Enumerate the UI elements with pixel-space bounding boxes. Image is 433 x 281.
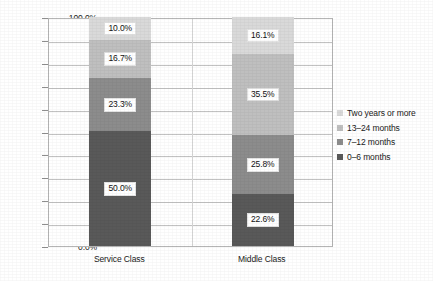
legend-swatch-icon (337, 125, 343, 131)
segment-value-label: 25.8% (247, 158, 279, 172)
bar-segment: 50.0% (89, 131, 151, 246)
segment-value-label: 35.5% (247, 88, 279, 102)
bar-middle-class: 16.1%35.5%25.8%22.6% (232, 17, 294, 246)
bar-segment: 16.1% (232, 17, 294, 54)
legend-swatch-icon (337, 154, 343, 160)
category-label: Middle Class (202, 254, 322, 264)
y-axis-tick-mark (42, 247, 48, 248)
bar-segment: 16.7% (89, 40, 151, 78)
legend-swatch-icon (337, 110, 343, 116)
bar-segment: 25.8% (232, 135, 294, 194)
legend-label: 13–24 months (347, 123, 400, 133)
bar-segment: 10.0% (89, 17, 151, 40)
segment-value-label: 10.0% (104, 22, 136, 36)
segment-value-label: 23.3% (104, 98, 136, 112)
plot-area: 10.0%16.7%23.3%50.0%16.1%35.5%25.8%22.6% (48, 18, 333, 247)
segment-value-label: 16.1% (247, 29, 279, 43)
bar-service-class: 10.0%16.7%23.3%50.0% (89, 17, 151, 246)
legend-item[interactable]: Two years or more (337, 108, 416, 118)
bar-segment: 23.3% (89, 78, 151, 131)
category-divider (192, 19, 193, 246)
bar-segment: 35.5% (232, 54, 294, 135)
segment-value-label: 50.0% (104, 182, 136, 196)
bar-segment: 22.6% (232, 194, 294, 246)
legend: Two years or more13–24 months7–12 months… (337, 108, 416, 162)
legend-item[interactable]: 13–24 months (337, 123, 416, 133)
legend-item[interactable]: 0–6 months (337, 152, 416, 162)
legend-swatch-icon (337, 139, 343, 145)
legend-item[interactable]: 7–12 months (337, 137, 416, 147)
category-label: Service Class (59, 254, 179, 264)
legend-label: Two years or more (347, 108, 416, 118)
legend-label: 0–6 months (347, 152, 390, 162)
stacked-bar-chart: 0.0%10.0%20.0%30.0%40.0%50.0%60.0%70.0%8… (0, 0, 433, 281)
segment-value-label: 22.6% (247, 213, 279, 227)
legend-label: 7–12 months (347, 137, 395, 147)
segment-value-label: 16.7% (104, 52, 136, 66)
